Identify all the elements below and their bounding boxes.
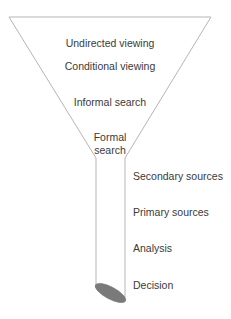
stage-primary-sources: Primary sources (133, 206, 209, 218)
stage-decision: Decision (133, 279, 173, 291)
funnel-outline (9, 17, 211, 297)
stage-conditional-viewing: Conditional viewing (65, 60, 155, 72)
stage-undirected-viewing: Undirected viewing (66, 37, 155, 49)
stage-formal-search-line2: search (94, 144, 126, 156)
funnel-bottom-ellipse (93, 280, 129, 307)
information-funnel-diagram: Undirected viewing Conditional viewing I… (0, 0, 231, 319)
stage-analysis: Analysis (133, 242, 172, 254)
stage-formal-search-line1: Formal (94, 131, 127, 143)
stage-informal-search: Informal search (74, 96, 146, 108)
stage-secondary-sources: Secondary sources (133, 170, 223, 182)
